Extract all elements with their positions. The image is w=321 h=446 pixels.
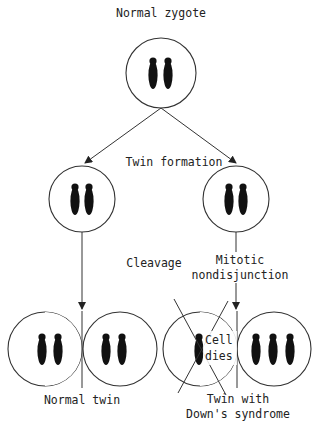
chromosome-icon xyxy=(70,183,79,215)
label-dies: dies xyxy=(205,349,233,363)
chromosome-icon xyxy=(238,183,247,215)
chromosome-icon xyxy=(101,333,110,365)
left-twin-cell xyxy=(49,166,115,232)
label-normal-twin: Normal twin xyxy=(44,393,120,407)
chromosome-icon xyxy=(148,57,157,89)
chromosome-icon xyxy=(285,333,294,365)
twin-nondisjunction-diagram: Normal zygote Twin formation Cleavage Mi… xyxy=(0,0,321,446)
chromosome-icon xyxy=(117,333,126,365)
chromosome-icon xyxy=(84,183,93,215)
label-cleavage: Cleavage xyxy=(126,256,181,270)
chromosome-icon xyxy=(163,57,172,89)
chromosome-icon xyxy=(37,333,46,365)
zygote-cell xyxy=(126,38,196,108)
chromosome-icon xyxy=(251,333,260,365)
label-twin-formation: Twin formation xyxy=(126,155,223,169)
label-nondisjunction: nondisjunction xyxy=(192,268,289,282)
label-normal-zygote: Normal zygote xyxy=(116,6,206,20)
right-twin-cell xyxy=(203,166,269,232)
chromosome-icon xyxy=(224,183,233,215)
label-cell: Cell xyxy=(205,333,233,347)
chromosome-icon xyxy=(53,333,62,365)
normal-twin-embryo xyxy=(8,311,157,388)
label-twin-with: Twin with xyxy=(207,392,269,406)
label-mitotic: Mitotic xyxy=(216,253,264,267)
label-downs-syndrome: Down's syndrome xyxy=(186,407,290,421)
chromosome-icon xyxy=(268,333,277,365)
